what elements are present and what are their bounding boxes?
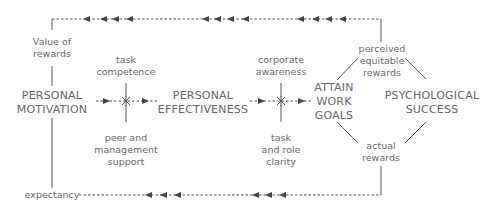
expectancy-text: expectancy (25, 189, 80, 201)
node-attain-work-goals: ATTAIN WORK GOALS (314, 81, 353, 123)
label-expectancy: expectancy (25, 189, 80, 201)
diag-perceived-to-attain (337, 58, 358, 80)
label-peer-management-support: peer and management support (94, 132, 158, 168)
actual-rewards-line1: actual (362, 140, 400, 152)
top-arrows-icon (83, 16, 346, 22)
label-corporate-awareness: corporate awareness (256, 54, 307, 78)
perceived-line3: rewards (359, 67, 406, 79)
actual-rewards-line2: rewards (362, 152, 400, 164)
peer-support-line1: peer and (94, 132, 158, 144)
corporate-awareness-line1: corporate (256, 54, 307, 66)
label-task-competence: task competence (97, 54, 156, 78)
peer-support-line2: management (94, 144, 158, 156)
label-value-of-rewards: Value of rewards (33, 36, 71, 60)
perceived-line2: equitable (359, 55, 406, 67)
node-personal-effectiveness: PERSONAL EFFECTIVENESS (158, 89, 248, 117)
label-perceived-equitable-rewards: perceived equitable rewards (359, 43, 406, 79)
perceived-line1: perceived (359, 43, 406, 55)
task-role-clarity-line1: task (262, 132, 301, 144)
peer-support-line3: support (94, 156, 158, 168)
personal-motivation-line1: PERSONAL (17, 89, 87, 103)
psych-line1: PSYCHOLOGICAL (385, 89, 479, 103)
task-role-clarity-line2: and role (262, 144, 301, 156)
attain-line1: ATTAIN (314, 81, 353, 95)
task-competence-line2: competence (97, 66, 156, 78)
attain-line3: GOALS (314, 109, 353, 123)
value-of-rewards-line1: Value of (33, 36, 71, 48)
corporate-awareness-line2: awareness (256, 66, 307, 78)
diag-perceived-to-psych (405, 58, 426, 79)
diag-attain-to-actual (337, 122, 358, 143)
node-personal-motivation: PERSONAL MOTIVATION (17, 89, 87, 117)
label-actual-rewards: actual rewards (362, 140, 400, 164)
task-competence-line1: task (97, 54, 156, 66)
personal-effectiveness-line2: EFFECTIVENESS (158, 103, 248, 117)
label-task-role-clarity: task and role clarity (262, 132, 301, 168)
node-psychological-success: PSYCHOLOGICAL SUCCESS (385, 89, 479, 117)
value-of-rewards-line2: rewards (33, 48, 71, 60)
diag-psych-to-actual (405, 122, 426, 143)
attain-line2: WORK (314, 95, 353, 109)
psych-line2: SUCCESS (385, 103, 479, 117)
personal-motivation-line2: MOTIVATION (17, 103, 87, 117)
personal-effectiveness-line1: PERSONAL (158, 89, 248, 103)
task-role-clarity-line3: clarity (262, 156, 301, 168)
